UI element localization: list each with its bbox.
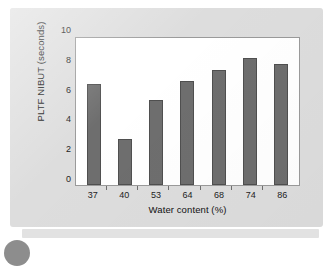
bar-slot [234,38,265,185]
bar-slot [109,38,140,185]
bar-slot [141,38,172,185]
bar-68 [212,70,226,185]
y-tick-label: 6 [66,85,71,95]
bar-slot [78,38,109,185]
x-tick-label: 53 [140,190,172,200]
x-tick-label: 74 [235,190,267,200]
bar-40 [118,139,132,185]
x-tick-label: 37 [77,190,109,200]
bar-64 [180,81,194,185]
y-tick-label: 10 [61,25,71,35]
x-tick-label: 86 [266,190,298,200]
x-tick-label: 40 [109,190,141,200]
x-tick-label: 64 [172,190,204,200]
figure-card: PLTF NIBUT (seconds) 10 8 6 4 2 0 37 40 [10,8,323,227]
y-axis-ticks: 10 8 6 4 2 0 [55,30,75,193]
x-tick-label: 68 [203,190,235,200]
bar-86 [274,64,288,185]
y-axis-title: PLTF NIBUT (seconds) [35,2,46,142]
x-axis-title: Water content (%) [75,204,300,215]
y-tick-label: 0 [66,174,71,184]
plot-area [75,37,300,186]
bar-slot [266,38,297,185]
y-tick-label: 4 [66,114,71,124]
bottom-decoration-circle [4,240,30,266]
y-tick-label: 2 [66,144,71,154]
bar-slot [172,38,203,185]
bar-series [76,38,299,185]
bottom-decoration-bar [22,229,319,238]
bar-slot [203,38,234,185]
x-axis-labels: 37 40 53 64 68 74 86 [75,190,300,200]
bar-37 [87,84,101,185]
bar-74 [243,58,257,185]
bar-53 [149,100,163,185]
y-tick-label: 8 [66,55,71,65]
